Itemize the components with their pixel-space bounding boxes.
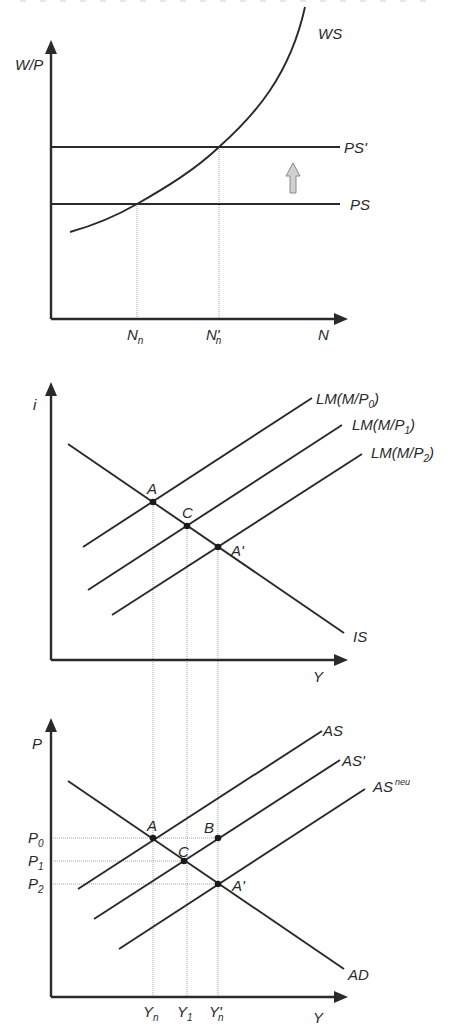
lm0-label: LM(M/P0) [316,390,379,410]
panel-as-ad: P Y AS AS' ASneu AD A B C A' P0 P1 P2 Yn… [28,718,410,1026]
economics-diagram: W/P WS PS' PS N Nn N'n i Y IS A C A' L [0,0,468,1033]
tick-ynp: Y'n [209,1003,224,1023]
y-axis-arrow-icon [45,382,57,396]
lm1-curve [88,425,342,590]
tick-nn: Nn [127,326,144,346]
is-label: IS [353,628,367,645]
shift-up-arrow-icon [286,163,300,193]
lm2-label: LM(M/P2) [371,444,434,464]
y-axis-label: i [33,396,37,413]
as-neu-curve [119,789,365,949]
ad-curve [68,781,344,969]
as-label: AS [322,722,343,739]
tick-p0: P0 [28,829,44,849]
tick-nnp: N'n [206,326,222,346]
lm2-curve [112,454,362,615]
point-a-prime [215,881,222,888]
x-axis-arrow-icon [334,313,348,325]
panel-labor-market: W/P WS PS' PS N Nn N'n [15,7,370,346]
tick-y1: Y1 [177,1003,193,1023]
x-axis-label: Y [313,1009,324,1026]
y-axis-label: P [32,735,42,752]
as-prime-label: AS' [341,752,366,769]
y-axis-arrow-icon [45,718,57,732]
lm1-label: LM(M/P1) [352,416,415,436]
ws-label: WS [318,25,342,42]
point-a-prime [215,544,222,551]
point-b [215,835,222,842]
label-a-prime: A' [231,877,246,894]
ad-label: AD [347,966,369,983]
y-axis-arrow-icon [45,40,57,54]
tick-yn: Yn [143,1003,159,1023]
lm0-curve [83,398,312,547]
label-c: C [178,843,189,860]
ps-prime-label: PS' [344,139,368,156]
label-c: C [182,504,193,521]
label-a: A [146,480,157,497]
label-a-prime: A' [230,542,245,559]
as-curve [78,731,322,889]
is-curve [68,444,344,633]
label-a: A [146,817,157,834]
x-axis-arrow-icon [334,654,348,666]
x-axis-label: N [318,326,329,343]
y-axis-label: W/P [15,56,43,73]
label-b: B [204,819,214,836]
tick-p2: P2 [28,875,44,895]
point-c [184,523,191,530]
ws-curve [70,7,305,232]
point-a [150,835,157,842]
as-neu-label: ASneu [372,777,410,795]
tick-p1: P1 [28,852,44,872]
x-axis-label: Y [313,668,324,685]
ps-label: PS [350,196,370,213]
point-a [150,499,157,506]
x-axis-arrow-icon [334,991,348,1003]
